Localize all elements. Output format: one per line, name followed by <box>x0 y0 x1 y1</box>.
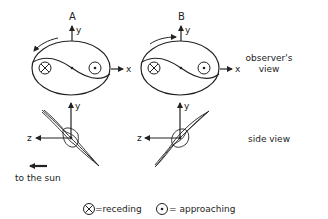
y-axis-label: y <box>75 101 81 111</box>
legend: =receding = approaching <box>84 204 236 215</box>
center-dot-icon <box>180 67 183 70</box>
approaching-symbol-icon <box>89 62 101 74</box>
legend-receding-icon <box>84 204 95 215</box>
observer-view-label-line2: view <box>259 64 280 74</box>
y-axis-label: y <box>185 25 191 35</box>
panel-b-side-view: y z <box>137 101 209 167</box>
z-axis-label: z <box>27 133 32 143</box>
legend-receding-label: =receding <box>95 204 142 214</box>
approaching-symbol-icon <box>198 62 210 74</box>
legend-approaching-label: = approaching <box>169 204 235 214</box>
y-axis-label: y <box>184 101 190 111</box>
edge-on-disk-warped <box>155 111 209 167</box>
center-dot-icon <box>71 67 74 70</box>
diagram-canvas: A y x B y <box>0 0 328 219</box>
sun-direction: to the sun <box>15 166 61 183</box>
observer-view-label-line1: observer's <box>246 53 293 63</box>
panel-a-side-view: y z <box>27 101 99 166</box>
receding-symbol-icon <box>148 62 160 74</box>
y-axis-label: y <box>76 25 82 35</box>
x-axis-label: x <box>235 64 241 74</box>
rotation-direction-arrow-icon <box>34 38 58 51</box>
panel-a-observer-view: A y x <box>32 11 132 95</box>
center-dot-icon <box>179 137 182 140</box>
panel-a-label: A <box>69 11 76 22</box>
receding-symbol-icon <box>39 62 51 74</box>
center-dot-icon <box>70 137 73 140</box>
legend-approaching-icon <box>157 204 168 215</box>
z-axis-label: z <box>137 133 142 143</box>
panel-b-observer-view: B y x <box>141 11 241 95</box>
panel-b-label: B <box>178 11 185 22</box>
sun-direction-label: to the sun <box>15 173 61 183</box>
x-axis-label: x <box>126 64 132 74</box>
side-view-label: side view <box>248 134 290 144</box>
rotation-direction-arrow-icon <box>150 37 176 44</box>
